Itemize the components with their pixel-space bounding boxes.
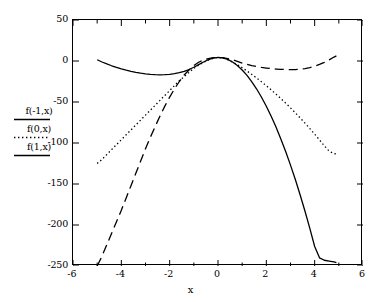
chart-legend: f(-1,x)f(0,x)f(1,x)	[13, 105, 65, 159]
legend-line-sample	[13, 152, 65, 159]
x-tick-label: -4	[105, 269, 135, 279]
y-tick-label: 50	[34, 14, 68, 24]
legend-item[interactable]: f(1,x)	[13, 141, 65, 159]
y-tick-label: 0	[34, 55, 68, 65]
legend-item-label: f(1,x)	[13, 141, 65, 152]
x-axis-label: x	[0, 285, 381, 295]
y-tick-label: -150	[34, 178, 68, 188]
chart-canvas: 500-50-100-150-200-250 -6-4-20246 x f(-1…	[0, 0, 381, 302]
x-tick-label: 6	[347, 269, 377, 279]
x-tick-label: -6	[57, 269, 87, 279]
plot-svg	[73, 20, 363, 266]
series-line-2	[97, 57, 336, 262]
legend-line-sample	[13, 116, 65, 123]
x-axis-tick-labels: -6-4-20246	[0, 269, 381, 283]
series-line-0	[97, 56, 336, 266]
x-tick-label: 4	[299, 269, 329, 279]
series-line-1	[97, 57, 336, 163]
legend-item-label: f(-1,x)	[13, 105, 65, 116]
legend-item-label: f(0,x)	[13, 123, 65, 134]
legend-item[interactable]: f(0,x)	[13, 123, 65, 141]
x-tick-label: 0	[202, 269, 232, 279]
y-tick-label: -200	[34, 219, 68, 229]
legend-item[interactable]: f(-1,x)	[13, 105, 65, 123]
x-tick-label: 2	[250, 269, 280, 279]
plot-area	[72, 19, 362, 265]
legend-line-sample	[13, 134, 65, 141]
x-tick-label: -2	[154, 269, 184, 279]
